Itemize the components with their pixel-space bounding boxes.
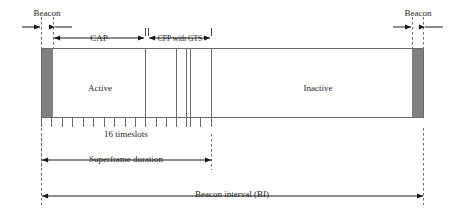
timeslots-label: 16 timeslots bbox=[104, 130, 148, 139]
gts-divider-2 bbox=[186, 48, 187, 118]
active-label: Active bbox=[88, 84, 112, 93]
superframe-diagram: Active Inactive Beacon Beacon 16 timeslo… bbox=[0, 0, 463, 215]
guide-beacon-right bbox=[413, 17, 424, 49]
guide-beacon-left bbox=[42, 17, 54, 49]
inactive-label: Inactive bbox=[304, 84, 333, 93]
beacon-block-right bbox=[412, 49, 423, 117]
superframe-duration-label: Superframe duration bbox=[86, 155, 166, 164]
beacon-block-left bbox=[42, 49, 53, 117]
beacon-label-right: Beacon bbox=[405, 9, 432, 18]
cap-label: CAP bbox=[88, 34, 110, 43]
guide-superframe bbox=[42, 134, 212, 170]
gts-divider-3 bbox=[190, 48, 191, 118]
beacon-label-left: Beacon bbox=[34, 9, 61, 18]
gts-divider-1 bbox=[176, 48, 177, 118]
cfp-label: CFP with GTS bbox=[157, 35, 203, 43]
active-inactive-divider bbox=[211, 48, 212, 118]
cap-cfp-divider bbox=[145, 48, 146, 118]
beacon-interval-label: Beacon interval (BI) bbox=[192, 190, 272, 199]
